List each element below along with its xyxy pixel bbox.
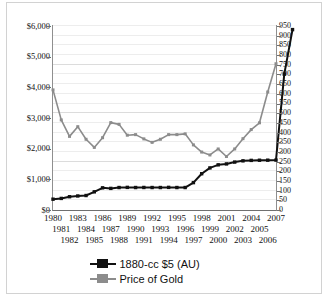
coin-marker [51,197,54,200]
plot-area [52,25,277,211]
y-axis-right-tick [277,65,281,66]
legend-marker-gold [90,273,116,284]
x-axis-tick-label: 1985 [81,235,107,246]
gold-marker [233,147,236,150]
coin-marker [134,186,137,189]
gold-marker [159,138,162,141]
x-axis-tick-label: 1993 [147,224,173,235]
gold-marker [217,147,220,150]
y-axis-right-tick-label: 400 [279,129,309,137]
y-axis-right-tick [277,26,281,27]
coin-marker [68,195,71,198]
gold-marker [241,137,244,140]
y-axis-right-tick [277,84,281,85]
coin-marker [84,194,87,197]
coin-marker [225,162,228,165]
legend-item-gold: Price of Gold [90,271,240,286]
gold-marker [76,125,79,128]
x-axis-tick-label: 1992 [139,213,165,224]
coin-marker [175,186,178,189]
gold-marker [208,153,211,156]
y-axis-left-tick [47,26,51,27]
y-axis-right-tick-label: 450 [279,119,309,127]
coin-marker [291,28,294,31]
gold-marker [142,137,145,140]
y-axis-right-tick [277,94,281,95]
y-axis-right-tick [277,171,281,172]
y-axis-right-tick-label: 150 [279,177,309,185]
x-axis-labels: 1980198319861989199219951998200120042007… [40,213,329,255]
y-axis-right-tick [277,36,281,37]
coin-line [53,30,293,200]
y-axis-right-tick [277,133,281,134]
x-axis-tick-label: 1998 [189,213,215,224]
y-axis-left-tick-label: $1,000 [2,175,50,184]
coin-marker [101,186,104,189]
gold-marker [93,146,96,149]
y-axis-right-tick-label: 50 [279,196,309,204]
y-axis-left-tick [47,149,51,150]
y-axis-right-tick [277,113,281,114]
gold-marker [85,138,88,141]
coin-marker [183,186,186,189]
y-axis-right-tick-label: 800 [279,51,309,59]
y-axis-right-tick-label: 300 [279,148,309,156]
coin-marker [208,166,211,169]
coin-marker [150,186,153,189]
y-axis-right-tick-label: 350 [279,138,309,146]
y-axis-right-tick [277,123,281,124]
gold-marker [167,133,170,136]
y-axis-left-tick-label: $6,000 [2,22,50,31]
x-axis-tick-label: 1986 [90,213,116,224]
gold-marker [184,132,187,135]
coin-marker [159,186,162,189]
gold-marker [175,133,178,136]
gold-marker [225,155,228,158]
coin-marker [216,163,219,166]
gold-marker [151,141,154,144]
legend-item-coin: 1880-cc $5 (AU) [90,256,240,271]
gold-marker [68,135,71,138]
gold-marker [192,143,195,146]
x-axis-tick-label: 1981 [48,224,74,235]
x-axis-tick-label: 1980 [40,213,66,224]
y-axis-right-tick [277,181,281,182]
coin-marker [266,158,269,161]
coin-marker [241,159,244,162]
coin-marker [93,190,96,193]
gold-marker [60,118,63,121]
x-axis-tick-label: 2007 [263,213,289,224]
x-axis-tick-label: 1982 [57,235,83,246]
y-axis-left-tick [47,57,51,58]
x-axis-tick-label: 1991 [131,235,157,246]
y-axis-left-tick-label: $4,000 [2,83,50,92]
y-axis-right-tick [277,191,281,192]
x-axis-tick-label: 2000 [205,235,231,246]
legend-marker-coin [90,258,116,269]
x-axis-tick-label: 2003 [230,235,256,246]
y-axis-left-tick-label: $5,000 [2,52,50,61]
gold-marker [250,128,253,131]
gold-marker [258,121,261,124]
y-axis-right-tick [277,152,281,153]
y-axis-right-tick [277,45,281,46]
x-axis-tick-label: 1988 [106,235,132,246]
y-axis-left-tick [47,210,51,211]
coin-marker [109,187,112,190]
x-axis-tick-label: 1999 [197,224,223,235]
y-axis-right-tick [277,55,281,56]
y-axis-right-tick [277,210,281,211]
y-axis-right-tick-label: 250 [279,158,309,166]
y-axis-right-tick-label: 200 [279,167,309,175]
y-axis-left-tick-label: $2,000 [2,144,50,153]
gold-marker [52,88,55,91]
gold-marker [200,151,203,154]
x-axis-tick-label: 2004 [238,213,264,224]
coin-marker [117,186,120,189]
y-axis-right-tick-label: 900 [279,32,309,40]
x-axis-tick-label: 2005 [246,224,272,235]
x-axis-tick-label: 1989 [114,213,140,224]
y-axis-left-tick-label: $3,000 [2,114,50,123]
y-axis-left-tick [47,118,51,119]
coin-marker [60,197,63,200]
